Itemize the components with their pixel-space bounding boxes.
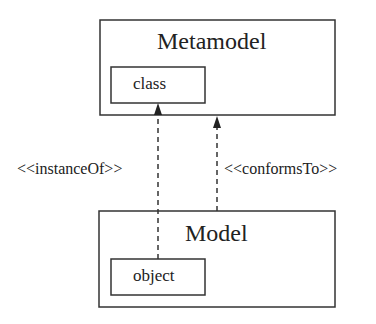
conformsto-arrowhead-icon [213, 116, 221, 128]
conformsto-label: <<conformsTo>> [224, 160, 337, 178]
metamodel-title: Metamodel [157, 28, 266, 55]
class-label: class [133, 74, 166, 94]
model-title: Model [185, 220, 248, 247]
object-label: object [133, 266, 175, 286]
instanceof-arrowhead-icon [154, 103, 162, 115]
instanceof-label: <<instanceOf>> [17, 160, 122, 178]
